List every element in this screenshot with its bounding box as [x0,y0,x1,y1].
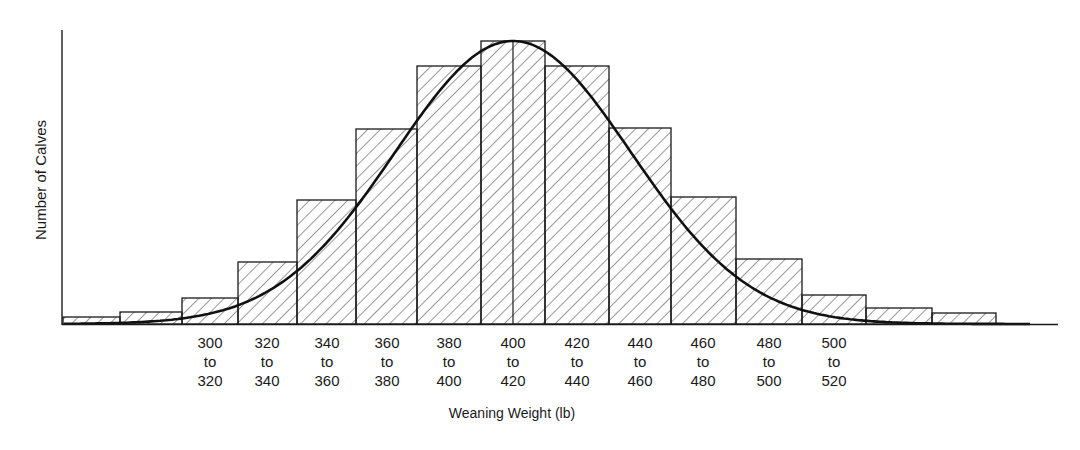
x-tick-line-bottom: 320 [180,371,240,390]
x-tick-line-top: 420 [547,333,607,352]
x-tick-label: 420to440 [547,333,607,390]
x-tick-line-top: 360 [357,333,417,352]
x-tick-line-bottom: 440 [547,371,607,390]
x-tick-line-bottom: 520 [804,371,864,390]
x-tick-line-top: 460 [673,333,733,352]
histogram-bar [356,129,417,324]
x-tick-label: 440to460 [610,333,670,390]
x-axis-label: Weaning Weight (lb) [449,405,575,421]
histogram-bars [63,41,996,324]
x-tick-line-bottom: 360 [297,371,357,390]
x-tick-line-top: 480 [739,333,799,352]
histogram-bar [182,298,238,324]
x-tick-line-mid: to [419,352,479,371]
x-tick-label: 380to400 [419,333,479,390]
histogram-bar [417,66,481,324]
x-tick-line-mid: to [180,352,240,371]
histogram-bar [736,259,802,324]
x-tick-line-bottom: 400 [419,371,479,390]
x-tick-line-top: 300 [180,333,240,352]
x-tick-label: 360to380 [357,333,417,390]
x-tick-line-bottom: 480 [673,371,733,390]
histogram-bar [545,66,609,324]
x-tick-line-top: 380 [419,333,479,352]
histogram-bar [238,262,297,324]
x-tick-line-mid: to [297,352,357,371]
x-tick-line-mid: to [673,352,733,371]
histogram-bar [671,197,736,324]
x-tick-line-top: 340 [297,333,357,352]
x-tick-line-top: 440 [610,333,670,352]
x-tick-line-mid: to [804,352,864,371]
x-tick-label: 500to520 [804,333,864,390]
x-tick-line-bottom: 420 [483,371,543,390]
x-tick-line-bottom: 500 [739,371,799,390]
x-tick-line-top: 320 [237,333,297,352]
x-tick-line-mid: to [483,352,543,371]
x-tick-label: 400to420 [483,333,543,390]
x-tick-label: 340to360 [297,333,357,390]
x-tick-label: 460to480 [673,333,733,390]
x-tick-line-mid: to [610,352,670,371]
x-tick-label: 320to340 [237,333,297,390]
x-tick-label: 300to320 [180,333,240,390]
x-tick-line-bottom: 340 [237,371,297,390]
x-tick-line-top: 500 [804,333,864,352]
x-tick-line-bottom: 380 [357,371,417,390]
x-tick-label: 480to500 [739,333,799,390]
x-tick-line-mid: to [739,352,799,371]
x-tick-line-top: 400 [483,333,543,352]
histogram-bar [609,128,671,324]
x-tick-line-bottom: 460 [610,371,670,390]
y-axis-label: Number of Calves [32,120,49,240]
x-tick-line-mid: to [357,352,417,371]
x-tick-line-mid: to [547,352,607,371]
x-tick-line-mid: to [237,352,297,371]
